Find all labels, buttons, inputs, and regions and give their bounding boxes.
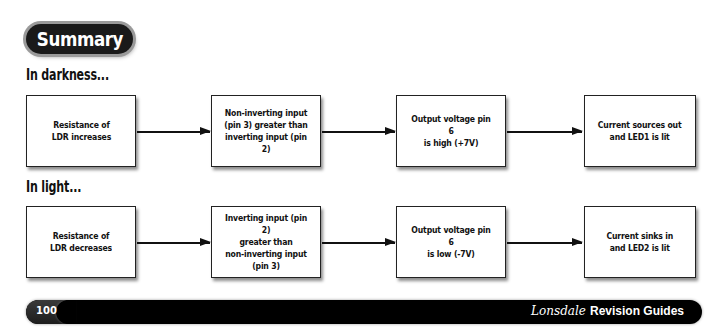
section-title-darkness: In darkness... — [26, 66, 109, 84]
arrow-icon — [137, 131, 210, 133]
flow-box-text: Current sources out and LED1 is lit — [598, 119, 682, 143]
brand-name: Revision Guides — [590, 304, 684, 318]
arrow-icon — [507, 131, 582, 133]
flow-box-text: Non-inverting input (pin 3) greater than… — [223, 107, 309, 155]
flow-box-light-2: Inverting input (pin 2) greater than non… — [211, 206, 321, 278]
page-footer: 100 Lonsdale Revision Guides — [26, 300, 702, 324]
arrow-icon — [137, 242, 210, 244]
flow-box-darkness-4: Current sources out and LED1 is lit — [584, 95, 696, 167]
flow-box-text: Resistance of LDR decreases — [50, 230, 112, 254]
flow-box-darkness-3: Output voltage pin 6 is high (+7V) — [396, 95, 506, 167]
arrow-icon — [507, 242, 582, 244]
summary-badge: Summary — [26, 24, 133, 54]
flow-box-darkness-1: Resistance of LDR increases — [26, 95, 136, 167]
flow-box-text: Current sinks in and LED2 is lit — [607, 230, 674, 254]
section-title-light: In light... — [26, 178, 81, 196]
flow-box-text: Inverting input (pin 2) greater than non… — [223, 212, 309, 272]
arrow-icon — [322, 242, 395, 244]
publisher-brand: Lonsdale Revision Guides — [531, 304, 684, 318]
flow-box-light-4: Current sinks in and LED2 is lit — [584, 206, 696, 278]
flow-box-text: Output voltage pin 6 is high (+7V) — [408, 113, 494, 149]
arrow-icon — [322, 131, 395, 133]
flow-box-darkness-2: Non-inverting input (pin 3) greater than… — [211, 95, 321, 167]
flow-box-text: Resistance of LDR increases — [51, 119, 110, 143]
flow-box-light-1: Resistance of LDR decreases — [26, 206, 136, 278]
flow-box-text: Output voltage pin 6 is low (-7V) — [408, 224, 494, 260]
summary-title: Summary — [36, 28, 122, 50]
brand-logo-script: Lonsdale — [531, 304, 586, 318]
flow-box-light-3: Output voltage pin 6 is low (-7V) — [396, 206, 506, 278]
page-number: 100 — [36, 305, 57, 316]
